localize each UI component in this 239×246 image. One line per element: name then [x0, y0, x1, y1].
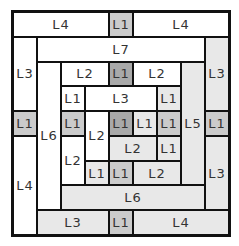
- quilt-piece-l2: L2: [133, 161, 181, 186]
- quilt-piece-l2: L2: [85, 111, 109, 161]
- quilt-piece-l1: L1: [109, 210, 133, 235]
- quilt-piece-l1: L1: [61, 111, 85, 136]
- quilt-piece-l6: L6: [37, 62, 61, 211]
- quilt-piece-l3: L3: [85, 86, 157, 111]
- quilt-piece-l1: L1: [157, 111, 181, 136]
- quilt-piece-l2: L2: [109, 136, 157, 161]
- quilt-piece-l2: L2: [61, 62, 109, 87]
- quilt-piece-l1: L1: [157, 86, 181, 111]
- quilt-piece-l3: L3: [13, 37, 37, 111]
- quilt-piece-l1: L1: [109, 12, 133, 37]
- quilt-piece-l6: L6: [61, 185, 205, 210]
- quilt-piece-l1: L1: [61, 86, 85, 111]
- quilt-piece-l1: L1: [109, 62, 133, 87]
- quilt-piece-l5: L5: [181, 62, 205, 186]
- quilt-piece-l3: L3: [37, 210, 109, 235]
- quilt-piece-l1: L1: [133, 111, 157, 136]
- quilt-piece-l4: L4: [13, 12, 109, 37]
- quilt-piece-l1: L1: [13, 111, 37, 136]
- quilt-piece-l4: L4: [133, 12, 229, 37]
- log-cabin-quilt-diagram: L4L1L4L3L7L3L1L1L4L3L6L2L1L2L5L1L3L1L1L2…: [11, 10, 231, 237]
- quilt-piece-l4: L4: [133, 210, 229, 235]
- quilt-piece-l3: L3: [205, 136, 229, 210]
- quilt-piece-l7: L7: [37, 37, 205, 62]
- quilt-piece-l2: L2: [133, 62, 181, 87]
- quilt-piece-l1: L1: [109, 161, 133, 186]
- quilt-piece-l1: L1: [109, 111, 133, 136]
- quilt-piece-l1: L1: [205, 111, 229, 136]
- quilt-piece-l1: L1: [157, 136, 181, 161]
- quilt-piece-l1: L1: [85, 161, 109, 186]
- quilt-piece-l3: L3: [205, 37, 229, 111]
- quilt-piece-l4: L4: [13, 136, 37, 235]
- quilt-piece-l2: L2: [61, 136, 85, 186]
